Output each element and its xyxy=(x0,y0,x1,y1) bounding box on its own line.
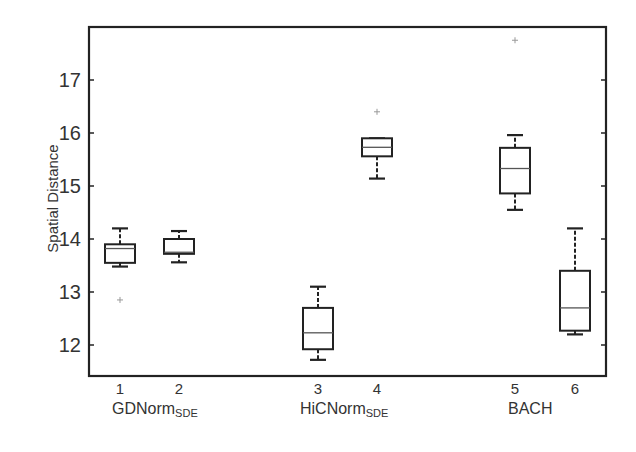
y-tick-label: 12 xyxy=(59,334,81,356)
y-tick-label: 16 xyxy=(59,122,81,144)
y-tick-label: 13 xyxy=(59,281,81,303)
group-label-gdnorm: GDNormSDE xyxy=(112,400,198,419)
group-label-bach: BACH xyxy=(508,400,552,418)
box xyxy=(105,244,135,263)
box xyxy=(500,148,530,194)
group-label-hicnorm: HiCNormSDE xyxy=(300,400,388,419)
x-tick-label: 3 xyxy=(314,380,322,397)
x-tick-label: 2 xyxy=(175,380,183,397)
box xyxy=(560,271,590,331)
x-tick-label: 1 xyxy=(116,380,124,397)
x-tick-label: 5 xyxy=(511,380,519,397)
y-tick-label: 14 xyxy=(59,228,81,250)
box xyxy=(303,308,333,349)
x-tick-label: 6 xyxy=(571,380,579,397)
y-tick-label: 17 xyxy=(59,69,81,91)
y-tick-label: 15 xyxy=(59,175,81,197)
plot-frame xyxy=(89,27,606,376)
x-tick-label: 4 xyxy=(373,380,381,397)
box-plot: 121314151617123456 xyxy=(0,0,636,452)
y-axis-label: Spatial Distance xyxy=(44,139,61,259)
